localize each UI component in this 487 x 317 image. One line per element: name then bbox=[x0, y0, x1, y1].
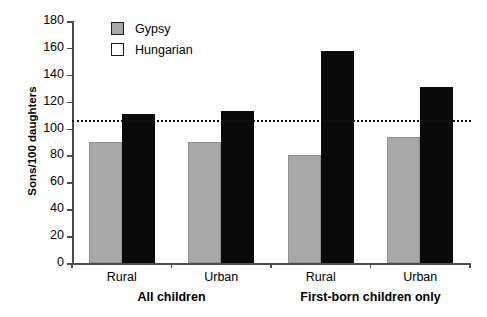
x-tick-label: Urban bbox=[403, 270, 437, 284]
y-tick-label: 80 bbox=[24, 147, 64, 161]
y-tick-label: 160 bbox=[24, 40, 64, 54]
x-tick-mark bbox=[370, 263, 372, 268]
reference-line bbox=[72, 120, 471, 122]
bar-hungarian-rural-2 bbox=[321, 51, 354, 263]
x-tick-mark bbox=[71, 263, 73, 268]
y-tick-label: 120 bbox=[24, 94, 64, 108]
y-tick-label: 180 bbox=[24, 13, 64, 27]
bar-gypsy-urban-3 bbox=[387, 137, 420, 263]
x-tick-mark bbox=[469, 263, 471, 268]
chart-figure: Sons/100 daughters 020406080100120140160… bbox=[0, 0, 487, 317]
y-tick-mark bbox=[67, 209, 72, 211]
y-tick-mark bbox=[67, 182, 72, 184]
bar-hungarian-rural-0 bbox=[122, 114, 155, 263]
y-tick-mark bbox=[67, 236, 72, 238]
y-tick-mark bbox=[67, 129, 72, 131]
y-tick-mark bbox=[67, 155, 72, 157]
x-tick-label: Urban bbox=[204, 270, 238, 284]
y-tick-mark bbox=[67, 75, 72, 77]
legend-label-hungarian: Hungarian bbox=[135, 43, 193, 57]
x-tick-label: Rural bbox=[306, 270, 336, 284]
y-tick-label: 40 bbox=[24, 201, 64, 215]
x-group-label: First-born children only bbox=[300, 290, 440, 304]
y-tick-label: 60 bbox=[24, 174, 64, 188]
y-tick-label: 100 bbox=[24, 121, 64, 135]
x-tick-mark bbox=[171, 263, 173, 268]
legend-swatch-hungarian-icon bbox=[111, 43, 124, 56]
chart-legend: Gypsy Hungarian bbox=[111, 18, 193, 60]
bar-hungarian-urban-3 bbox=[420, 87, 453, 263]
x-tick-label: Rural bbox=[107, 270, 137, 284]
bar-gypsy-urban-1 bbox=[188, 142, 221, 263]
y-tick-mark bbox=[67, 21, 72, 23]
y-tick-label: 140 bbox=[24, 67, 64, 81]
legend-swatch-gypsy-icon bbox=[111, 22, 124, 35]
y-tick-mark bbox=[67, 48, 72, 50]
y-tick-mark bbox=[67, 102, 72, 104]
x-group-label: All children bbox=[137, 290, 205, 304]
bar-hungarian-urban-1 bbox=[221, 111, 254, 263]
y-tick-label: 20 bbox=[24, 228, 64, 242]
y-axis-line bbox=[72, 21, 74, 264]
bar-gypsy-rural-2 bbox=[288, 155, 321, 263]
x-tick-mark bbox=[270, 263, 272, 268]
y-tick-label: 0 bbox=[24, 255, 64, 269]
legend-label-gypsy: Gypsy bbox=[135, 22, 170, 36]
legend-item-gypsy: Gypsy bbox=[111, 18, 193, 39]
bar-gypsy-rural-0 bbox=[89, 142, 122, 263]
legend-item-hungarian: Hungarian bbox=[111, 39, 193, 60]
